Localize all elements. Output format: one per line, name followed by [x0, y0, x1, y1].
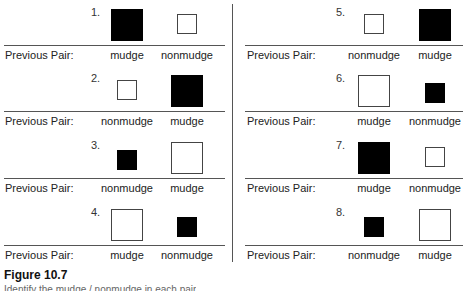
pair-label-mudge: mudge	[147, 115, 227, 127]
previous-pair-label: Previous Pair:	[247, 249, 315, 261]
trial-number: 7.	[336, 139, 345, 151]
trial-row-8: 8.Previous Pair:nonmudgemudge	[233, 200, 465, 266]
trial-row-2: 2.Previous Pair:nonmudgemudge	[0, 66, 232, 132]
white-small-square	[177, 14, 197, 34]
row-rule	[245, 45, 463, 46]
white-small-square	[117, 80, 137, 100]
previous-pair-label: Previous Pair:	[5, 115, 73, 127]
trial-row-1: 1.Previous Pair:mudgenonmudge	[0, 0, 232, 66]
trial-number: 6.	[336, 72, 345, 84]
row-rule	[4, 245, 225, 246]
black-small-square	[425, 83, 445, 103]
black-large-square	[111, 9, 143, 41]
previous-pair-label: Previous Pair:	[247, 182, 315, 194]
trial-row-4: 4.Previous Pair:mudgenonmudge	[0, 200, 232, 266]
pair-label-nonmudge: nonmudge	[147, 249, 227, 261]
trial-row-3: 3.Previous Pair:nonmudgemudge	[0, 133, 232, 199]
trial-number: 1.	[91, 6, 100, 18]
white-large-square	[171, 142, 203, 174]
previous-pair-label: Previous Pair:	[5, 49, 73, 61]
pair-label-mudge: mudge	[395, 249, 465, 261]
left-panel: 1.Previous Pair:mudgenonmudge2.Previous …	[0, 0, 232, 266]
trial-row-6: 6.Previous Pair:mudgenonmudge	[233, 66, 465, 132]
white-small-square	[425, 147, 445, 167]
previous-pair-label: Previous Pair:	[5, 249, 73, 261]
pair-label-nonmudge: nonmudge	[395, 115, 465, 127]
trial-number: 2.	[91, 72, 100, 84]
pair-label-mudge: mudge	[147, 182, 227, 194]
pair-label-nonmudge: nonmudge	[147, 49, 227, 61]
black-small-square	[117, 150, 137, 170]
row-rule	[245, 111, 463, 112]
row-rule	[4, 178, 225, 179]
white-large-square	[111, 209, 143, 241]
trial-row-7: 7.Previous Pair:mudgenonmudge	[233, 133, 465, 199]
white-large-square	[358, 75, 390, 107]
white-large-square	[419, 209, 451, 241]
row-rule	[245, 245, 463, 246]
black-large-square	[171, 75, 203, 107]
black-small-square	[177, 217, 197, 237]
white-small-square	[364, 14, 384, 34]
trial-row-5: 5.Previous Pair:nonmudgemudge	[233, 0, 465, 66]
pair-label-nonmudge: nonmudge	[395, 182, 465, 194]
trial-number: 3.	[91, 139, 100, 151]
black-small-square	[364, 217, 384, 237]
row-rule	[245, 178, 463, 179]
black-large-square	[358, 142, 390, 174]
figure-caption: Identify the mudge / nonmudge in each pa…	[4, 283, 196, 291]
trial-number: 5.	[336, 6, 345, 18]
trial-number: 8.	[336, 206, 345, 218]
right-panel: 5.Previous Pair:nonmudgemudge6.Previous …	[233, 0, 465, 266]
previous-pair-label: Previous Pair:	[5, 182, 73, 194]
trial-number: 4.	[91, 206, 100, 218]
row-rule	[4, 111, 225, 112]
previous-pair-label: Previous Pair:	[247, 115, 315, 127]
black-large-square	[419, 9, 451, 41]
previous-pair-label: Previous Pair:	[247, 49, 315, 61]
pair-label-mudge: mudge	[395, 49, 465, 61]
row-rule	[4, 45, 225, 46]
figure-title: Figure 10.7	[4, 268, 67, 282]
